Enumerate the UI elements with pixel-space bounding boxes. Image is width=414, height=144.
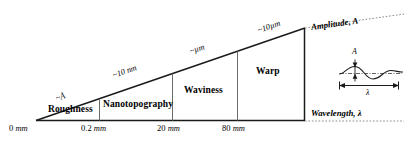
inset-surface-profile xyxy=(339,67,403,80)
figure-canvas: Roughness Nanotopography Waviness Warp 0… xyxy=(0,0,414,144)
axis-tick-0mm-unit: mm xyxy=(15,123,27,133)
inset-wavelength-symbol: λ xyxy=(366,88,369,97)
axis-tick-02mm: 0.2 mm xyxy=(81,123,106,133)
axis-tick-80mm: 80 mm xyxy=(222,123,245,133)
inset-amplitude-arrowhead-down xyxy=(353,74,358,79)
axis-tick-80mm-value: 80 xyxy=(222,123,231,133)
axis-tick-02mm-unit: mm xyxy=(94,123,106,133)
axis-tick-02mm-value: 0.2 xyxy=(81,123,92,133)
band-label-roughness: Roughness xyxy=(48,104,93,114)
band-label-waviness: Waviness xyxy=(184,85,223,95)
band-label-nanotopography: Nanotopography xyxy=(103,99,173,109)
legend-wavelength: Wavelength, λ xyxy=(311,108,362,118)
inset-amplitude-symbol: A xyxy=(352,47,357,56)
axis-tick-80mm-unit: mm xyxy=(233,123,245,133)
band-label-warp: Warp xyxy=(256,66,280,76)
axis-tick-0mm-value: 0 xyxy=(9,123,13,133)
axis-tick-20mm: 20 mm xyxy=(157,123,180,133)
axis-tick-20mm-unit: mm xyxy=(168,123,180,133)
axis-tick-0mm: 0 mm xyxy=(9,123,28,133)
axis-tick-20mm-value: 20 xyxy=(157,123,166,133)
